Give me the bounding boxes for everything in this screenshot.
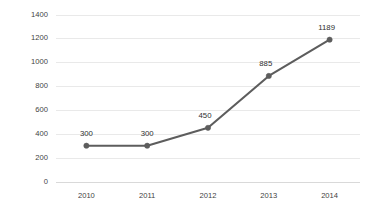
y-axis-tick-label: 1000 bbox=[31, 57, 48, 66]
x-axis-tick-label: 2013 bbox=[260, 191, 277, 200]
y-axis-tick-label: 600 bbox=[35, 105, 48, 114]
y-axis-tick-label: 200 bbox=[35, 153, 48, 162]
chart-canvas: 0200400600800100012001400 20102011201220… bbox=[0, 0, 384, 211]
data-point-marker bbox=[327, 37, 332, 42]
line-chart: 0200400600800100012001400 20102011201220… bbox=[0, 0, 384, 211]
data-point-label: 300 bbox=[80, 129, 94, 138]
data-point-marker bbox=[84, 143, 89, 148]
x-axis-tick-label: 2014 bbox=[321, 191, 338, 200]
data-point-marker bbox=[205, 125, 210, 130]
y-axis-tick-label: 1200 bbox=[31, 33, 48, 42]
data-point-label: 300 bbox=[141, 129, 155, 138]
y-axis-tick-label: 400 bbox=[35, 129, 48, 138]
x-axis-tick-label: 2012 bbox=[200, 191, 217, 200]
data-point-label: 450 bbox=[198, 111, 212, 120]
data-point-label: 1189 bbox=[318, 23, 335, 32]
y-axis-tick-label: 800 bbox=[35, 81, 48, 90]
x-axis-tick-label: 2011 bbox=[139, 191, 155, 200]
data-point-marker bbox=[145, 143, 150, 148]
y-axis-tick-label: 0 bbox=[44, 177, 48, 186]
y-axis-tick-label: 1400 bbox=[31, 10, 48, 19]
data-point-label: 885 bbox=[259, 59, 273, 68]
data-point-marker bbox=[266, 73, 271, 78]
x-axis-tick-label: 2010 bbox=[78, 191, 95, 200]
